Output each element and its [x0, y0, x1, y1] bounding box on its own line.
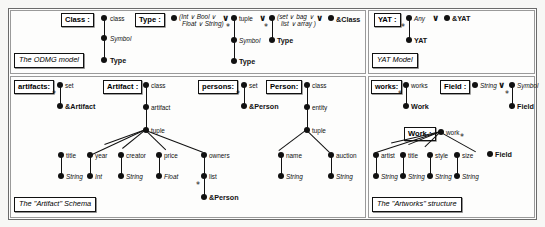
caption-odmg-model: The ODMG model: [14, 53, 84, 68]
node-owners-person: [201, 194, 207, 200]
node-work-field-reference: [487, 151, 493, 157]
label-work-type-style: String: [435, 174, 452, 180]
class-node-box: Class :: [61, 13, 94, 27]
type-node-box: Type :: [135, 13, 165, 27]
label-class-root: class: [110, 16, 125, 22]
node-type-year: [87, 173, 93, 179]
label-work-field-title: title: [408, 153, 418, 159]
label-class-reference: &Class: [336, 16, 360, 23]
star-marker-yat: *: [401, 24, 405, 32]
node-field-leaf: [509, 103, 515, 109]
caption-artifact-schema: The "Artifact" Schema: [14, 197, 96, 212]
node-work-type-style: [427, 173, 433, 179]
node-person-type-name: [278, 173, 284, 179]
label-artifact-mid: artifact: [151, 105, 170, 111]
star-marker-works: *: [398, 91, 402, 99]
node-type-price: [156, 173, 162, 179]
node-tuple-type: [231, 58, 237, 64]
node-class-type: [101, 57, 107, 63]
label-owners-person: &Person: [209, 194, 239, 201]
label-person-field-name: name: [286, 153, 302, 159]
label-work-type-title: String: [408, 174, 425, 180]
label-field-string: String: [480, 83, 497, 89]
label-field-year: year: [95, 153, 107, 159]
label-work-field-size: size: [462, 153, 473, 159]
label-field-symbol: Symbol: [517, 83, 538, 89]
node-work-type-artist: [373, 173, 379, 179]
label-field-price: price: [164, 153, 178, 159]
node-artifacts-leaf: [57, 103, 63, 109]
star-marker-collection: *: [264, 24, 268, 32]
label-yat-child: YAT: [414, 37, 427, 44]
persons-node-box: persons:: [198, 80, 238, 94]
label-artifacts-leaf: &Artifact: [65, 103, 95, 110]
label-artifact-root: class: [151, 83, 166, 89]
or-symbol-field: ∨: [498, 81, 505, 90]
field-node-box: Field :: [440, 80, 470, 94]
caption-artworks-structure: The "Artworks" structure: [372, 197, 462, 212]
label-field-leaf: Field: [517, 103, 534, 110]
label-tuple-type: Type: [239, 58, 255, 65]
node-type-creator: [118, 173, 124, 179]
label-type-price: Float: [164, 174, 178, 180]
label-type-tuple: tuple: [239, 16, 253, 22]
edge-artifact-mid-tuple: [146, 109, 147, 129]
or-symbol-2: ∨: [259, 14, 266, 23]
label-works-leaf: Work: [411, 103, 429, 110]
label-works-root: works: [411, 83, 428, 89]
or-symbol-3: ∨: [316, 14, 323, 23]
artifact-node-box: Artifact :: [103, 80, 142, 94]
label-tuple-symbol: Symbol: [239, 38, 260, 44]
or-symbol-yat: ∨: [432, 14, 439, 23]
node-persons-leaf: [241, 103, 247, 109]
node-collection-type: [269, 37, 275, 43]
figure-canvas: Class : class Symbol Type Type : (Int ∨ …: [0, 0, 545, 227]
label-work-type-size: String: [462, 174, 479, 180]
label-persons-root: set: [249, 83, 258, 89]
node-yat-reference: [444, 15, 450, 21]
person-node-box: Person:: [266, 80, 302, 94]
star-marker-tuple: *: [226, 24, 230, 32]
caption-yat-model: YAT Model: [372, 53, 418, 68]
label-person-tuple: tuple: [312, 128, 326, 134]
node-work-type-size: [454, 173, 460, 179]
label-type-scalar-line2: Float ∨ String): [182, 21, 224, 28]
label-type-creator: String: [126, 174, 143, 180]
node-type-title: [58, 173, 64, 179]
node-yat-child: [406, 37, 412, 43]
label-type-title: String: [66, 174, 83, 180]
node-type-scalar: [171, 15, 177, 21]
or-symbol-1: ∨: [222, 14, 229, 23]
label-person-entity: entity: [312, 105, 327, 111]
edge-person-entity-tuple: [307, 109, 308, 129]
label-persons-leaf: &Person: [249, 103, 279, 110]
label-type-year: Int: [95, 174, 102, 180]
label-yat-any: Any: [414, 16, 425, 22]
label-field-owners: owners: [209, 153, 230, 159]
label-field-title: title: [66, 153, 76, 159]
label-class-type: Type: [110, 57, 126, 64]
label-work-type-artist: String: [381, 174, 398, 180]
yat-node-box: YAT :: [374, 13, 401, 27]
label-person-field-auction: auction: [336, 153, 357, 159]
label-class-symbol: Symbol: [110, 36, 131, 42]
node-class-reference: [328, 15, 334, 21]
label-yat-reference: &YAT: [452, 15, 470, 22]
node-work-type-title: [400, 173, 406, 179]
star-marker-work-field: *: [460, 134, 464, 142]
label-type-collection-line2: list ∨ array ): [281, 21, 316, 28]
star-marker-artifacts: *: [52, 91, 56, 99]
label-owners-list: list: [209, 174, 217, 180]
label-work-field-artist: artist: [381, 153, 395, 159]
label-artifacts-root: set: [65, 83, 74, 89]
label-collection-type: Type: [277, 37, 293, 44]
label-work-field-style: style: [435, 153, 448, 159]
label-person-root: class: [312, 83, 327, 89]
label-person-type-auction: String: [336, 174, 353, 180]
star-marker-owners: *: [196, 182, 200, 190]
star-marker-field: *: [505, 91, 509, 99]
star-marker-persons: *: [236, 91, 240, 99]
node-person-type-auction: [328, 173, 334, 179]
node-works-leaf: [403, 103, 409, 109]
node-field-string: [472, 82, 478, 88]
